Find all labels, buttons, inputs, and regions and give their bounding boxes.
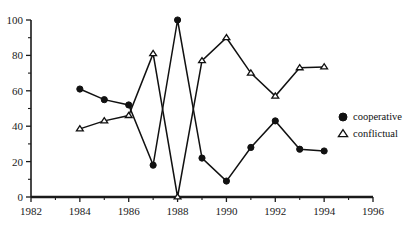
x-tick-label: 1994 bbox=[313, 205, 336, 217]
data-point-cooperative bbox=[101, 97, 107, 103]
y-tick-label: 0 bbox=[18, 191, 24, 203]
legend-marker-cooperative bbox=[339, 113, 347, 121]
y-tick-label: 40 bbox=[12, 120, 24, 132]
x-tick-label: 1990 bbox=[215, 205, 238, 217]
legend-label-conflictual: conflictual bbox=[353, 128, 398, 139]
data-point-cooperative bbox=[297, 146, 303, 152]
data-point-cooperative bbox=[272, 118, 278, 124]
data-point-cooperative bbox=[223, 178, 229, 184]
data-point-cooperative bbox=[77, 86, 83, 92]
x-tick-label: 1992 bbox=[264, 205, 286, 217]
y-tick-label: 20 bbox=[12, 156, 24, 168]
x-tick-label: 1982 bbox=[20, 205, 42, 217]
x-tick-label: 1986 bbox=[118, 205, 141, 217]
legend-label-cooperative: cooperative bbox=[353, 111, 402, 122]
data-point-cooperative bbox=[248, 144, 254, 150]
data-point-cooperative bbox=[150, 162, 156, 168]
chart-container: 020406080100 198219841986198819901992199… bbox=[0, 0, 418, 243]
x-tick-label: 1984 bbox=[69, 205, 92, 217]
line-chart: 020406080100 198219841986198819901992199… bbox=[0, 0, 418, 243]
data-point-cooperative bbox=[321, 148, 327, 154]
y-tick-label: 100 bbox=[7, 14, 24, 26]
data-point-cooperative bbox=[199, 155, 205, 161]
y-tick-label: 80 bbox=[12, 49, 24, 61]
x-tick-label: 1996 bbox=[362, 205, 385, 217]
y-tick-label: 60 bbox=[12, 85, 24, 97]
data-point-cooperative bbox=[126, 102, 132, 108]
data-point-cooperative bbox=[174, 17, 180, 23]
x-tick-label: 1988 bbox=[167, 205, 190, 217]
